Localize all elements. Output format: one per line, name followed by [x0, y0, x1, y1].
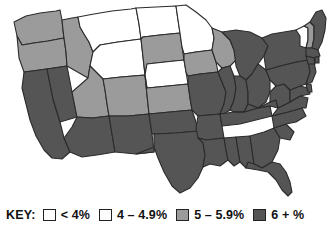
legend-label-band3: 5 – 5.9%: [194, 208, 244, 222]
state-MN[interactable]: [176, 5, 214, 54]
us-map-svg: [0, 0, 327, 200]
state-FL[interactable]: [246, 162, 292, 196]
state-CO[interactable]: [103, 75, 149, 116]
state-OK[interactable]: [149, 110, 198, 134]
state-AR[interactable]: [196, 114, 224, 140]
legend-swatch-band4: [253, 209, 266, 221]
legend-swatch-band2: [99, 209, 112, 221]
state-NE[interactable]: [145, 60, 188, 88]
legend-label-band1: < 4%: [61, 208, 90, 222]
legend-item-band2[interactable]: 4 – 4.9%: [99, 208, 167, 222]
legend-label-band2: 4 – 4.9%: [117, 208, 167, 222]
choropleth-figure: KEY: < 4% 4 – 4.9% 5 – 5.9% 6 + %: [0, 0, 327, 231]
map-legend: KEY: < 4% 4 – 4.9% 5 – 5.9% 6 + %: [0, 201, 327, 229]
legend-item-band4[interactable]: 6 + %: [253, 208, 304, 222]
legend-swatch-band3: [176, 209, 189, 221]
us-map: [0, 0, 327, 200]
state-NM[interactable]: [109, 114, 154, 154]
legend-key-label: KEY:: [6, 208, 36, 222]
legend-swatch-band1: [43, 209, 56, 221]
state-RI[interactable]: [315, 57, 319, 63]
states-group: [14, 5, 326, 196]
legend-label-band4: 6 + %: [271, 208, 304, 222]
legend-item-band3[interactable]: 5 – 5.9%: [176, 208, 244, 222]
legend-item-band1[interactable]: < 4%: [43, 208, 90, 222]
state-AZ[interactable]: [64, 116, 115, 157]
state-GA[interactable]: [250, 128, 280, 168]
